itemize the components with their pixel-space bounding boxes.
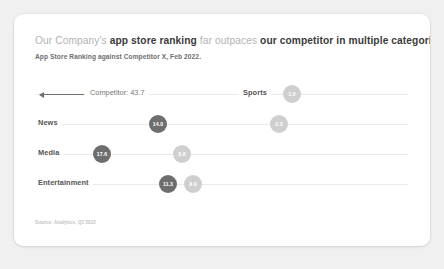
page-title: Our Company's app store ranking far outp…	[35, 34, 416, 47]
row-label-entertainment: Entertainment	[34, 178, 93, 187]
bubble-competitor-news[interactable]: 2.3	[270, 115, 288, 133]
bubble-ours-entertainment[interactable]: 11.3	[159, 175, 177, 193]
source-footnote: Source: Analytics, Q1'2022	[35, 220, 96, 225]
bubble-ours-news[interactable]: 14.0	[149, 115, 167, 133]
bubble-competitor-entertainment[interactable]: 8.9	[184, 175, 202, 193]
headline-segment-1: Our Company's	[35, 35, 110, 46]
screenshot-stage: Our Company's app store ranking far outp…	[0, 0, 444, 269]
chart-card: Our Company's app store ranking far outp…	[14, 14, 430, 246]
competitor-annotation-label: Competitor: 43.7	[86, 88, 149, 97]
bubble-competitor-media[interactable]: 8.8	[173, 145, 191, 163]
chart-row-sports: Competitor: 43.7 Sports 1.0	[14, 80, 430, 110]
headline-segment-4: our competitor in multiple categories.	[260, 35, 430, 46]
chart-row-media: Media 17.6 8.8	[14, 140, 430, 170]
row-label-sports: Sports	[239, 88, 271, 97]
row-label-news: News	[34, 118, 62, 127]
headline-segment-2: app store ranking	[110, 35, 197, 46]
chart-row-entertainment: Entertainment 11.3 8.9	[14, 170, 430, 200]
row-label-media: Media	[34, 148, 63, 157]
competitor-arrow-icon	[40, 94, 84, 95]
headline-segment-3: far outpaces	[197, 35, 260, 46]
bubble-ours-media[interactable]: 17.6	[93, 145, 111, 163]
chart-plot-area: Competitor: 43.7 Sports 1.0 News 14.0 2.…	[14, 80, 430, 212]
bubble-competitor-sports[interactable]: 1.0	[283, 85, 301, 103]
row-connector-line	[36, 154, 408, 155]
row-connector-line	[36, 124, 408, 125]
chart-subtitle: App Store Ranking against Competitor X, …	[35, 53, 201, 60]
chart-row-news: News 14.0 2.3	[14, 110, 430, 140]
